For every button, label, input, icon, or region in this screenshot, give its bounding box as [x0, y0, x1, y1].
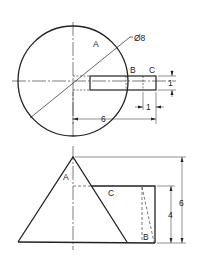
dim-label-slot-width: 1 [168, 78, 173, 88]
technical-drawing: A Ø8 B C 1 1 6 A C B 6 4 [0, 0, 199, 266]
label-c-front: C [108, 188, 114, 198]
dim-label-height-4: 4 [168, 210, 173, 220]
label-a-front: A [63, 172, 69, 182]
slot-top-view [90, 76, 156, 90]
dim-label-offset: 1 [146, 102, 151, 112]
label-diameter: Ø8 [134, 33, 146, 43]
cone-base [18, 242, 155, 243]
dim-label-length: 6 [101, 114, 106, 124]
label-a-top: A [93, 39, 99, 49]
cone-profile [18, 157, 127, 242]
label-b-front: B [143, 232, 149, 242]
label-c-top: C [149, 65, 155, 75]
diameter-leader [30, 37, 130, 118]
dim-label-height-6: 6 [179, 198, 184, 208]
label-b-top: B [130, 65, 136, 75]
front-view [18, 146, 186, 250]
